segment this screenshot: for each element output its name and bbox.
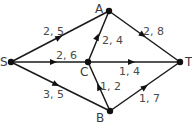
node-label-a: A bbox=[95, 2, 104, 16]
edge-label-s-c: 2, 6 bbox=[56, 49, 77, 62]
edge-label-s-b: 3, 5 bbox=[43, 88, 64, 101]
node-b bbox=[107, 108, 113, 114]
edge-label-b-c: 1, 2 bbox=[100, 80, 121, 93]
node-label-s: S bbox=[0, 55, 8, 69]
node-label-b: B bbox=[96, 111, 104, 125]
node-a bbox=[106, 8, 112, 14]
edge-s-b bbox=[11, 62, 110, 111]
node-label-c: C bbox=[80, 65, 88, 79]
node-label-t: T bbox=[184, 55, 192, 69]
edge-label-s-a: 2, 5 bbox=[43, 25, 64, 38]
edge-label-c-t: 1, 4 bbox=[119, 65, 140, 78]
node-s bbox=[8, 59, 14, 65]
node-t bbox=[177, 59, 183, 65]
edge-label-b-t: 1, 7 bbox=[139, 92, 160, 105]
edge-label-c-a: 2, 4 bbox=[102, 34, 123, 47]
network-diagram: S A C B T 2, 5 2, 6 3, 5 2, 4 1, 2 1, 4 … bbox=[0, 0, 192, 125]
edge-label-a-t: 2, 8 bbox=[143, 25, 164, 38]
